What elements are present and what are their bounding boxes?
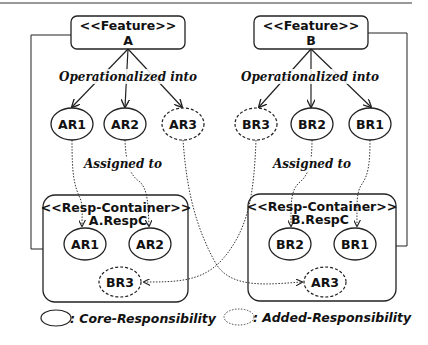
resp-br3[interactable]: BR3 bbox=[235, 108, 277, 140]
container-a-br3[interactable]: BR3 bbox=[99, 267, 141, 297]
container-a-name: A.RespC bbox=[89, 213, 147, 228]
assigned-label-a: Assigned to bbox=[83, 157, 162, 171]
feature-a[interactable]: <<Feature>> A bbox=[71, 16, 185, 49]
operationalized-label-a: Operationalized into bbox=[59, 70, 197, 84]
resp-br1[interactable]: BR1 bbox=[349, 108, 391, 140]
feature-b-name: B bbox=[306, 33, 316, 48]
svg-text:BR1: BR1 bbox=[356, 117, 384, 132]
feature-a-container-link bbox=[31, 35, 71, 249]
container-a-ar1[interactable]: AR1 bbox=[64, 228, 106, 260]
resp-ar1[interactable]: AR1 bbox=[51, 108, 93, 140]
resp-ar2[interactable]: AR2 bbox=[104, 108, 146, 140]
svg-text:AR3: AR3 bbox=[169, 117, 197, 132]
svg-text:AR2: AR2 bbox=[136, 237, 164, 252]
container-b-br1[interactable]: BR1 bbox=[334, 228, 376, 260]
operationalized-label-b: Operationalized into bbox=[241, 70, 379, 84]
added-ellipse-icon bbox=[224, 309, 254, 325]
container-b-name: B.RespC bbox=[291, 212, 349, 227]
svg-text:BR1: BR1 bbox=[341, 237, 369, 252]
diagram-canvas: <<Feature>> A <<Feature>> B Operationali… bbox=[0, 0, 428, 345]
resp-ar3[interactable]: AR3 bbox=[162, 108, 204, 140]
legend-added: : Added-Responsibility bbox=[224, 309, 412, 325]
container-a-ar2[interactable]: AR2 bbox=[129, 228, 171, 260]
resp-br2[interactable]: BR2 bbox=[291, 108, 333, 140]
svg-text:BR2: BR2 bbox=[276, 237, 304, 252]
legend-added-label: : Added-Responsibility bbox=[253, 310, 412, 325]
legend-core-label: : Core-Responsibility bbox=[70, 311, 217, 326]
container-b-ar3[interactable]: AR3 bbox=[304, 267, 346, 297]
svg-text:AR1: AR1 bbox=[71, 237, 99, 252]
svg-text:BR3: BR3 bbox=[106, 275, 134, 290]
legend-core: : Core-Responsibility bbox=[41, 310, 217, 326]
svg-text:BR2: BR2 bbox=[298, 117, 326, 132]
svg-text:BR3: BR3 bbox=[242, 117, 270, 132]
feature-b-stereotype: <<Feature>> bbox=[263, 18, 359, 33]
core-ellipse-icon bbox=[41, 310, 71, 326]
feature-a-stereotype: <<Feature>> bbox=[80, 18, 176, 33]
svg-text:AR2: AR2 bbox=[111, 117, 139, 132]
feature-a-name: A bbox=[123, 33, 133, 48]
container-b-br2[interactable]: BR2 bbox=[269, 228, 311, 260]
svg-text:AR1: AR1 bbox=[58, 117, 86, 132]
feature-b[interactable]: <<Feature>> B bbox=[254, 16, 368, 49]
assigned-label-b: Assigned to bbox=[272, 157, 351, 171]
svg-text:AR3: AR3 bbox=[311, 275, 339, 290]
